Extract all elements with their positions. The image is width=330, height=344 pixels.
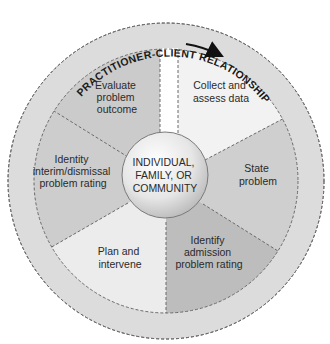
label-plan-intervene: Plan and intervene — [98, 245, 142, 270]
label-state-problem: State problem — [239, 162, 277, 187]
label-evaluate: Evaluate problem outcome — [95, 79, 139, 115]
label-collect: Collect and assess data — [193, 79, 249, 104]
center-label: INDIVIDUAL, FAMILY, OR COMMUNITY — [133, 156, 198, 194]
process-cycle-diagram: PRACTITIONER-CLIENT RELATIONSHIP Collect… — [0, 0, 330, 344]
